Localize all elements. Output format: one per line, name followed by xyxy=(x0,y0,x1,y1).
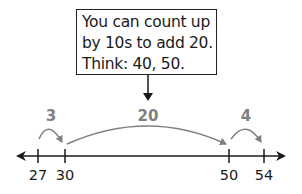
jump-label-20: 20 xyxy=(138,107,159,125)
jump-label-3: 3 xyxy=(46,107,56,125)
number-line-graphics xyxy=(0,0,302,194)
callout-pointer-arrow xyxy=(143,75,153,101)
jump-label-4: 4 xyxy=(241,107,251,125)
jump-arc-3 xyxy=(39,129,62,142)
tick-label-50: 50 xyxy=(220,167,238,183)
jump-arc-4 xyxy=(231,129,261,142)
number-line-axis xyxy=(16,151,286,161)
jump-arcs xyxy=(39,126,261,144)
tick-label-27: 27 xyxy=(29,167,47,183)
tick-label-54: 54 xyxy=(255,167,273,183)
tick-label-30: 30 xyxy=(56,167,74,183)
number-line-diagram: You can count up by 10s to add 20. Think… xyxy=(0,0,302,194)
jump-arc-20 xyxy=(67,126,226,144)
